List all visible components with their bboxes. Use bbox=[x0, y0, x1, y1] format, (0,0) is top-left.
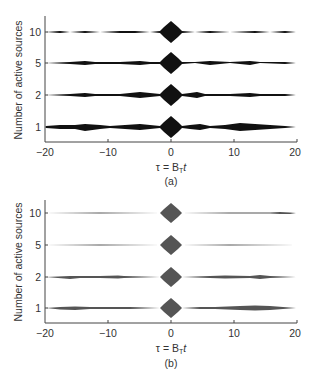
trace-2 bbox=[46, 267, 296, 287]
trace-10 bbox=[46, 21, 296, 43]
x-tick: −10 bbox=[99, 327, 117, 339]
x-axis-label: τ = BTt bbox=[156, 342, 187, 355]
y-tick-2: 2 bbox=[35, 271, 41, 283]
x-tick: −20 bbox=[36, 327, 54, 339]
trace-1 bbox=[46, 298, 296, 318]
x-tick: −10 bbox=[99, 146, 117, 158]
x-tick: 10 bbox=[228, 327, 240, 339]
y-tick-5: 5 bbox=[35, 57, 41, 69]
y-axis-label: Number of active sources bbox=[12, 20, 24, 139]
y-tick-5: 5 bbox=[35, 239, 41, 251]
y-tick-2: 2 bbox=[35, 89, 41, 101]
x-tick: 0 bbox=[168, 327, 174, 339]
x-tick: 20 bbox=[289, 327, 301, 339]
trace-5 bbox=[46, 235, 296, 255]
x-axis-label: τ = BTt bbox=[156, 161, 187, 174]
x-tick: 0 bbox=[168, 146, 174, 158]
trace-5 bbox=[46, 52, 296, 74]
y-tick-10: 10 bbox=[29, 26, 41, 38]
panel-caption: (b) bbox=[165, 357, 178, 369]
panel-a: 10 5 2 1 −20 −10 0 10 20 Number of activ… bbox=[12, 16, 301, 187]
y-tick-1: 1 bbox=[35, 121, 41, 133]
trace-10 bbox=[46, 203, 296, 223]
traces-b bbox=[46, 203, 296, 318]
y-axis-label: Number of active sources bbox=[12, 202, 24, 321]
x-tick: 20 bbox=[289, 146, 301, 158]
traces-a bbox=[46, 21, 296, 138]
figure: 10 5 2 1 −20 −10 0 10 20 Number of activ… bbox=[0, 0, 313, 384]
y-tick-1: 1 bbox=[35, 302, 41, 314]
x-tick: −20 bbox=[36, 146, 54, 158]
y-tick-10: 10 bbox=[29, 207, 41, 219]
trace-2 bbox=[46, 84, 296, 106]
panel-b: 10 5 2 1 −20 −10 0 10 20 Number of activ… bbox=[12, 200, 301, 369]
panel-caption: (a) bbox=[165, 175, 178, 187]
trace-1 bbox=[46, 116, 296, 138]
x-tick: 10 bbox=[228, 146, 240, 158]
